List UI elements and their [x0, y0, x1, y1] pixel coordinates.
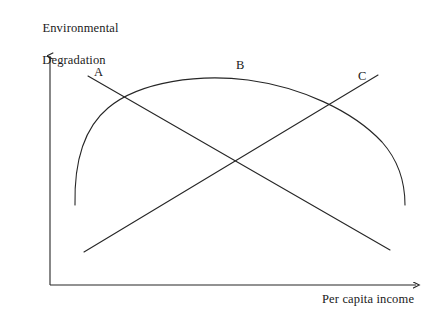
y-axis-label: Environmental Degradation [14, 4, 134, 100]
point-label-b: B [236, 59, 244, 72]
descending-line [88, 76, 390, 250]
chart-figure: Environmental Degradation Per capita inc… [0, 0, 444, 314]
y-axis-label-line2: Degradation [14, 52, 134, 68]
ascending-line [84, 75, 378, 252]
point-label-a: A [94, 66, 103, 79]
x-axis-label: Per capita income [322, 291, 414, 307]
y-axis-label-line1: Environmental [42, 21, 118, 35]
point-label-c: C [358, 70, 366, 83]
